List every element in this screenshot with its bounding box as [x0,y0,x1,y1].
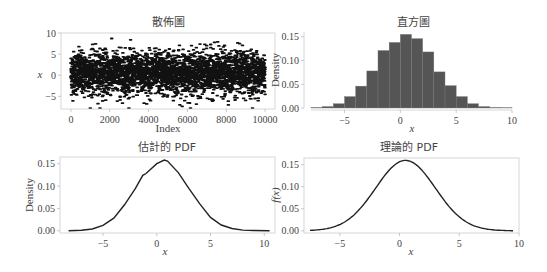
estimated-pdf-frame [60,157,275,233]
estimated-pdf-plot: 估計的 PDF −505100.000.050.100.15 x Density [23,140,275,257]
svg-text:0: 0 [397,238,402,249]
svg-text:5: 5 [208,238,213,249]
svg-text:10: 10 [514,238,524,249]
svg-text:0.05: 0.05 [38,203,56,214]
svg-text:0.10: 0.10 [282,181,300,192]
estimated-pdf-xlabel: x [162,245,168,257]
scatter-plot: 散佈圖 0200040006000800010000−50510 Index x [37,15,278,134]
svg-text:10: 10 [259,238,269,249]
svg-text:0.00: 0.00 [282,103,300,114]
scatter-xlabel: Index [155,122,181,134]
svg-text:5: 5 [454,115,459,126]
svg-text:0.00: 0.00 [38,225,56,236]
theoretical-pdf-frame [304,158,519,233]
svg-text:10000: 10000 [253,114,278,125]
histogram-title: 直方圖 [397,15,430,29]
theoretical-pdf-ylabel: f(x) [269,187,282,203]
svg-text:10: 10 [46,28,56,39]
svg-text:5: 5 [51,49,56,60]
estimated-pdf-title: 估計的 PDF [138,140,196,154]
histogram-xlabel: x [409,122,415,134]
histogram-bars [311,34,512,108]
svg-text:0.15: 0.15 [282,31,300,42]
svg-text:−5: −5 [339,115,350,126]
svg-text:0.05: 0.05 [282,79,300,90]
svg-text:0: 0 [51,70,56,81]
svg-text:0: 0 [154,238,159,249]
svg-text:0.15: 0.15 [38,158,56,169]
figure: 散佈圖 0200040006000800010000−50510 Index x… [0,0,547,272]
svg-text:10: 10 [507,115,517,126]
theoretical-pdf-plot: 理論的 PDF −505100.000.050.100.15 x f(x) [269,140,524,257]
svg-text:8000: 8000 [216,114,236,125]
svg-text:0: 0 [398,115,403,126]
svg-text:5: 5 [457,238,462,249]
theoretical-pdf-title: 理論的 PDF [380,140,438,154]
theoretical-pdf-ticks: −505100.000.050.100.15 [282,159,525,249]
theoretical-pdf-line [310,160,513,230]
histogram-plot: 直方圖 −505100.000.050.100.15 x Density [269,15,517,134]
svg-text:−5: −5 [335,238,346,249]
estimated-pdf-ylabel: Density [23,177,35,212]
svg-text:−5: −5 [98,238,109,249]
scatter-ylabel: x [37,68,43,80]
scatter-points [70,39,266,109]
estimated-pdf-ticks: −505100.000.050.100.15 [38,158,270,249]
svg-text:0: 0 [68,114,73,125]
histogram-ylabel: Density [269,52,281,87]
svg-text:0.10: 0.10 [38,181,56,192]
svg-text:0.15: 0.15 [282,159,300,170]
scatter-title: 散佈圖 [152,15,185,29]
estimated-pdf-line [69,160,270,231]
svg-text:0.00: 0.00 [282,225,300,236]
svg-text:−5: −5 [45,91,56,102]
svg-text:0.05: 0.05 [282,203,300,214]
theoretical-pdf-xlabel: x [408,245,414,257]
svg-text:2000: 2000 [100,114,120,125]
svg-text:0.10: 0.10 [282,55,300,66]
